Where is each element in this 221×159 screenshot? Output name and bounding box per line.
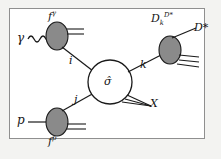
proton-pdf-superscript: p <box>52 134 56 142</box>
hard-cross-section-label: σ̂ <box>104 76 112 87</box>
parton-k-label: k <box>140 59 147 70</box>
proton-label: p <box>17 114 25 126</box>
photon-pdf-blob <box>46 22 68 50</box>
fragmentation-symbol: D <box>151 12 160 25</box>
photon-pdf-label: fγ <box>48 10 56 22</box>
fragmentation-remnant-line-3 <box>177 64 199 67</box>
proton-pdf-label: fp <box>48 135 56 147</box>
photon-pdf-superscript: γ <box>52 9 56 17</box>
photon-label: γ <box>17 32 24 44</box>
parton-j-line <box>62 93 94 111</box>
feynman-diagram-figure: γ fγ i p fp j σ̂ k DkD* D* X <box>0 0 221 159</box>
proton-pdf-blob <box>46 108 68 136</box>
fragmentation-remnant-line-1 <box>179 55 199 57</box>
fragmentation-subscript: k <box>160 19 164 27</box>
fragmentation-remnant-line-2 <box>179 60 199 62</box>
fragmentation-label: DkD* <box>151 12 173 27</box>
dstar-out-label: D* <box>194 22 208 33</box>
parton-i-label: i <box>69 55 73 66</box>
parton-i-line <box>62 47 93 71</box>
fragmentation-superscript: D* <box>164 11 173 19</box>
parton-j-label: j <box>74 94 77 105</box>
remnant-x-label: X <box>150 98 158 109</box>
fragmentation-blob <box>159 36 181 64</box>
dstar-out-line <box>172 28 196 38</box>
